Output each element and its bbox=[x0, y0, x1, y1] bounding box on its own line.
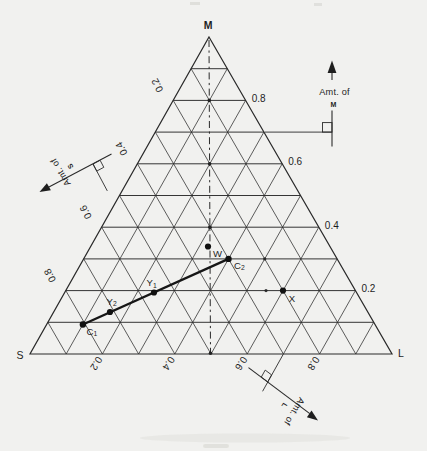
m-axis-tick-label: 0.8 bbox=[252, 93, 266, 104]
junction-dot bbox=[208, 225, 212, 229]
paper-background bbox=[0, 0, 427, 451]
scan-artifact bbox=[314, 3, 322, 6]
scanned-figure-page: W C2 Y1 Y2 C1 X M S L 0.80.60.40.20.20.4… bbox=[0, 0, 427, 451]
scan-artifact bbox=[140, 434, 350, 443]
vertex-label-s: S bbox=[16, 349, 23, 361]
junction-dot bbox=[208, 162, 212, 166]
junction-dot bbox=[209, 351, 213, 355]
point-dot-c1 bbox=[80, 321, 86, 327]
m-axis-tick-label: 0.6 bbox=[288, 156, 302, 167]
point-dot-w bbox=[205, 243, 211, 249]
vertex-label-m: M bbox=[204, 19, 213, 31]
junction-dot bbox=[264, 289, 267, 292]
scan-artifact bbox=[203, 444, 229, 448]
junction-dot bbox=[208, 99, 212, 103]
ternary-phase-diagram: W C2 Y1 Y2 C1 X M S L 0.80.60.40.20.20.4… bbox=[0, 0, 427, 451]
point-label-w: W bbox=[213, 248, 223, 259]
scan-artifact bbox=[190, 2, 200, 5]
vertex-label-l: L bbox=[398, 347, 404, 359]
point-dot-y1 bbox=[151, 289, 157, 295]
point-dot-x bbox=[280, 288, 286, 294]
point-label-x: X bbox=[289, 293, 296, 304]
point-dot-y2 bbox=[107, 309, 113, 315]
point-dot-c2 bbox=[225, 256, 231, 262]
m-axis-component-label: M bbox=[331, 101, 337, 108]
m-axis-tick-label: 0.4 bbox=[325, 220, 339, 231]
junction-dot bbox=[263, 257, 266, 260]
m-axis-amount-label: Amt. of bbox=[319, 87, 350, 97]
m-axis-tick-label: 0.2 bbox=[361, 283, 375, 294]
